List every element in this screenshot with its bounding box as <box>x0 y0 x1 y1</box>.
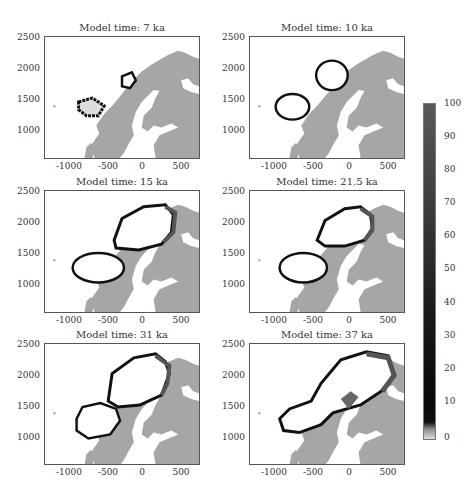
x-tick: -1000 <box>254 161 294 171</box>
map-plot <box>44 190 200 313</box>
y-tick: 2500 <box>211 32 245 42</box>
y-tick: 2000 <box>6 217 40 227</box>
panel-title: Model time: 10 ka <box>249 22 405 33</box>
y-tick: 2500 <box>6 186 40 196</box>
map-plot <box>249 36 405 159</box>
x-tick: 0 <box>122 161 162 171</box>
x-tick: 0 <box>329 315 369 325</box>
y-tick: 1500 <box>211 248 245 258</box>
y-tick: 1500 <box>6 401 40 411</box>
y-tick: 1000 <box>6 125 40 135</box>
y-tick: 1500 <box>6 248 40 258</box>
colorbar-tick: 30 <box>444 330 455 340</box>
x-tick: -1000 <box>49 161 89 171</box>
colorbar-tick: 70 <box>444 197 455 207</box>
y-tick: 1000 <box>211 279 245 289</box>
map-plot <box>249 190 405 313</box>
x-tick: 500 <box>161 161 201 171</box>
colorbar-tick: 50 <box>444 263 455 273</box>
map-plot <box>44 343 200 465</box>
x-tick: -1000 <box>254 467 294 477</box>
x-tick: -500 <box>293 315 333 325</box>
x-tick: 0 <box>122 467 162 477</box>
panel-title: Model time: 7 ka <box>44 22 200 33</box>
y-tick: 1500 <box>211 401 245 411</box>
panel-title: Model time: 37 ka <box>249 329 405 340</box>
colorbar-tick: 80 <box>444 164 455 174</box>
y-tick: 2000 <box>6 370 40 380</box>
y-tick: 2000 <box>211 217 245 227</box>
x-tick: 500 <box>161 315 201 325</box>
y-tick: 1500 <box>211 94 245 104</box>
x-tick: -1000 <box>49 467 89 477</box>
panel-title: Model time: 15 ka <box>44 176 200 187</box>
y-tick: 1000 <box>211 125 245 135</box>
x-tick: 500 <box>161 467 201 477</box>
x-tick: -500 <box>293 161 333 171</box>
x-tick: 500 <box>368 467 408 477</box>
x-tick: 0 <box>122 315 162 325</box>
map-plot <box>44 36 200 159</box>
colorbar-tick: 10 <box>444 396 455 406</box>
x-tick: 500 <box>368 315 408 325</box>
colorbar-tick: 20 <box>444 363 455 373</box>
panel-title: Model time: 31 ka <box>44 329 200 340</box>
panel-title: Model time: 21.5 ka <box>249 176 405 187</box>
y-tick: 1000 <box>6 279 40 289</box>
colorbar <box>423 103 436 440</box>
y-tick: 1000 <box>211 432 245 442</box>
colorbar-tick: 0 <box>444 432 450 442</box>
colorbar-tick: 40 <box>444 297 455 307</box>
colorbar-tick: 60 <box>444 230 455 240</box>
y-tick: 2500 <box>6 32 40 42</box>
x-tick: 0 <box>329 467 369 477</box>
map-plot <box>249 343 405 465</box>
y-tick: 2500 <box>211 186 245 196</box>
y-tick: 2000 <box>6 63 40 73</box>
x-tick: -500 <box>293 467 333 477</box>
y-tick: 2500 <box>6 339 40 349</box>
y-tick: 2000 <box>211 63 245 73</box>
colorbar-tick: 100 <box>444 98 461 108</box>
colorbar-tick: 90 <box>444 131 455 141</box>
x-tick: -1000 <box>49 315 89 325</box>
x-tick: -1000 <box>254 315 294 325</box>
x-tick: 500 <box>368 161 408 171</box>
y-tick: 2000 <box>211 370 245 380</box>
y-tick: 1500 <box>6 94 40 104</box>
y-tick: 2500 <box>211 339 245 349</box>
y-tick: 1000 <box>6 432 40 442</box>
x-tick: 0 <box>329 161 369 171</box>
